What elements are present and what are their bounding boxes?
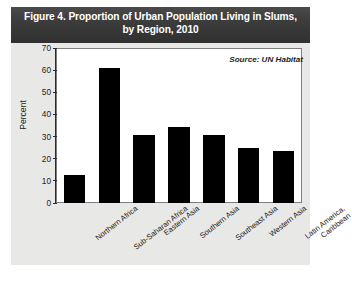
bar	[64, 175, 85, 203]
y-axis-tick-label: 30	[15, 132, 51, 142]
y-axis-tick-label: 20	[15, 154, 51, 164]
x-axis-label: Latin America,Caribbean	[303, 204, 352, 248]
bar	[203, 135, 224, 203]
y-axis-tick: 70	[11, 43, 60, 53]
y-axis-tick: 0	[11, 198, 60, 208]
y-axis-tick-label: 50	[15, 87, 51, 97]
y-axis-tick: 50	[11, 87, 60, 97]
bar	[273, 151, 294, 203]
y-axis-tick: 40	[11, 109, 60, 119]
bar-column	[133, 49, 154, 203]
y-axis-tick-label: 70	[15, 43, 51, 53]
y-axis-tick-label: 0	[15, 198, 51, 208]
bar-column	[238, 49, 259, 203]
bar	[99, 68, 120, 204]
bar	[133, 135, 154, 203]
y-axis-tick-label: 60	[15, 65, 51, 75]
chart-title-line-2: by Region, 2010	[19, 24, 302, 37]
y-axis-tick-label: 10	[15, 176, 51, 186]
bars-group	[57, 49, 301, 203]
y-axis-tick: 60	[11, 65, 60, 75]
bar	[168, 127, 189, 204]
bar-column	[273, 49, 294, 203]
x-axis-label: Northern Africa	[94, 204, 140, 242]
y-axis-tick: 30	[11, 132, 60, 142]
x-axis-labels: Northern AfricaSub-Saharan AfricaEastern…	[57, 204, 301, 264]
y-axis-tick: 20	[11, 154, 60, 164]
bar-column	[64, 49, 85, 203]
bar-column	[99, 49, 120, 203]
x-axis-label: Sub-Saharan Africa	[132, 204, 190, 252]
figure-panel: Figure 4. Proportion of Urban Population…	[11, 7, 310, 265]
bar-column	[168, 49, 189, 203]
page-title: Figure 4. Proportion of Urban Population…	[19, 11, 302, 36]
x-axis-label-line: Sub-Saharan Africa	[132, 204, 189, 252]
bar-column	[203, 49, 224, 203]
y-axis-tick: 10	[11, 176, 60, 186]
figure-header-band: Figure 4. Proportion of Urban Population…	[11, 7, 310, 43]
chart-title-line-1: Figure 4. Proportion of Urban Population…	[24, 11, 297, 22]
x-axis-label-line: Northern Africa	[94, 204, 139, 242]
bar	[238, 148, 259, 203]
y-axis-tick-label: 40	[15, 109, 51, 119]
